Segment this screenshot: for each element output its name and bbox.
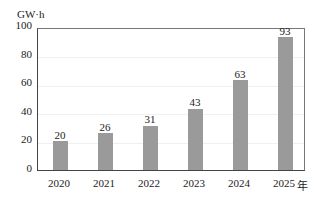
y-tick: 100 xyxy=(4,19,32,31)
bar-2021 xyxy=(98,133,113,170)
bar-value-label: 43 xyxy=(180,96,210,108)
gridline xyxy=(38,114,304,115)
x-tick: 2020 xyxy=(39,177,79,189)
y-tick: 40 xyxy=(4,105,32,117)
y-tick: 0 xyxy=(4,162,32,174)
bar-2024 xyxy=(233,80,248,170)
y-tick: 80 xyxy=(4,48,32,60)
y-tick: 60 xyxy=(4,76,32,88)
bar-2022 xyxy=(143,126,158,170)
bar-value-label: 31 xyxy=(135,113,165,125)
x-tick: 2023 xyxy=(174,177,214,189)
bar-value-label: 93 xyxy=(270,25,300,37)
plot-area: 20 26 31 43 63 93 xyxy=(37,28,305,171)
y-tick: 20 xyxy=(4,133,32,145)
x-axis-unit: 年 xyxy=(297,177,308,193)
bar-value-label: 26 xyxy=(90,121,120,133)
x-tick: 2021 xyxy=(84,177,124,189)
x-tick: 2022 xyxy=(129,177,169,189)
bar-2023 xyxy=(188,109,203,171)
gridline xyxy=(38,57,304,58)
bar-2025 xyxy=(278,37,293,170)
gridline xyxy=(38,86,304,87)
x-tick: 2024 xyxy=(219,177,259,189)
gridline xyxy=(38,143,304,144)
bar-value-label: 20 xyxy=(45,129,75,141)
bar-value-label: 63 xyxy=(225,68,255,80)
bar-2020 xyxy=(53,141,68,170)
